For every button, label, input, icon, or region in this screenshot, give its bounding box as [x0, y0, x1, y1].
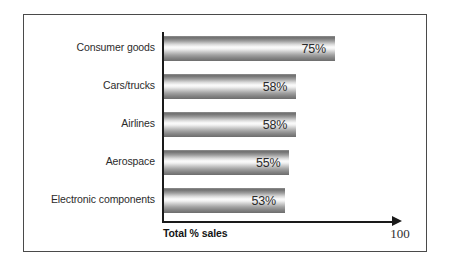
bar-cars-trucks: 58%	[164, 74, 296, 99]
value-axis-max-label: 100	[380, 226, 420, 242]
plot-area: Consumer goods Cars/trucks Airlines Aero…	[0, 0, 451, 266]
category-label-electronic-components: Electronic components	[5, 193, 155, 205]
value-axis-line	[162, 221, 396, 223]
category-label-aerospace: Aerospace	[5, 155, 155, 167]
bar-electronic-components: 53%	[164, 188, 285, 213]
bar-consumer-goods: 75%	[164, 36, 335, 61]
category-label-cars-trucks: Cars/trucks	[5, 79, 155, 91]
bar-value-label: 75%	[302, 41, 326, 55]
bar-value-label: 58%	[263, 117, 287, 131]
category-label-consumer-goods: Consumer goods	[5, 41, 155, 53]
bar-value-label: 58%	[263, 79, 287, 93]
bar-value-label: 55%	[256, 155, 280, 169]
value-axis-arrow-icon	[392, 216, 402, 226]
category-label-airlines: Airlines	[5, 117, 155, 129]
bar-airlines: 58%	[164, 112, 296, 137]
bar-aerospace: 55%	[164, 150, 289, 175]
chart-figure: Consumer goods Cars/trucks Airlines Aero…	[0, 0, 451, 266]
value-axis-title: Total % sales	[163, 227, 227, 239]
bar-value-label: 53%	[251, 193, 275, 207]
